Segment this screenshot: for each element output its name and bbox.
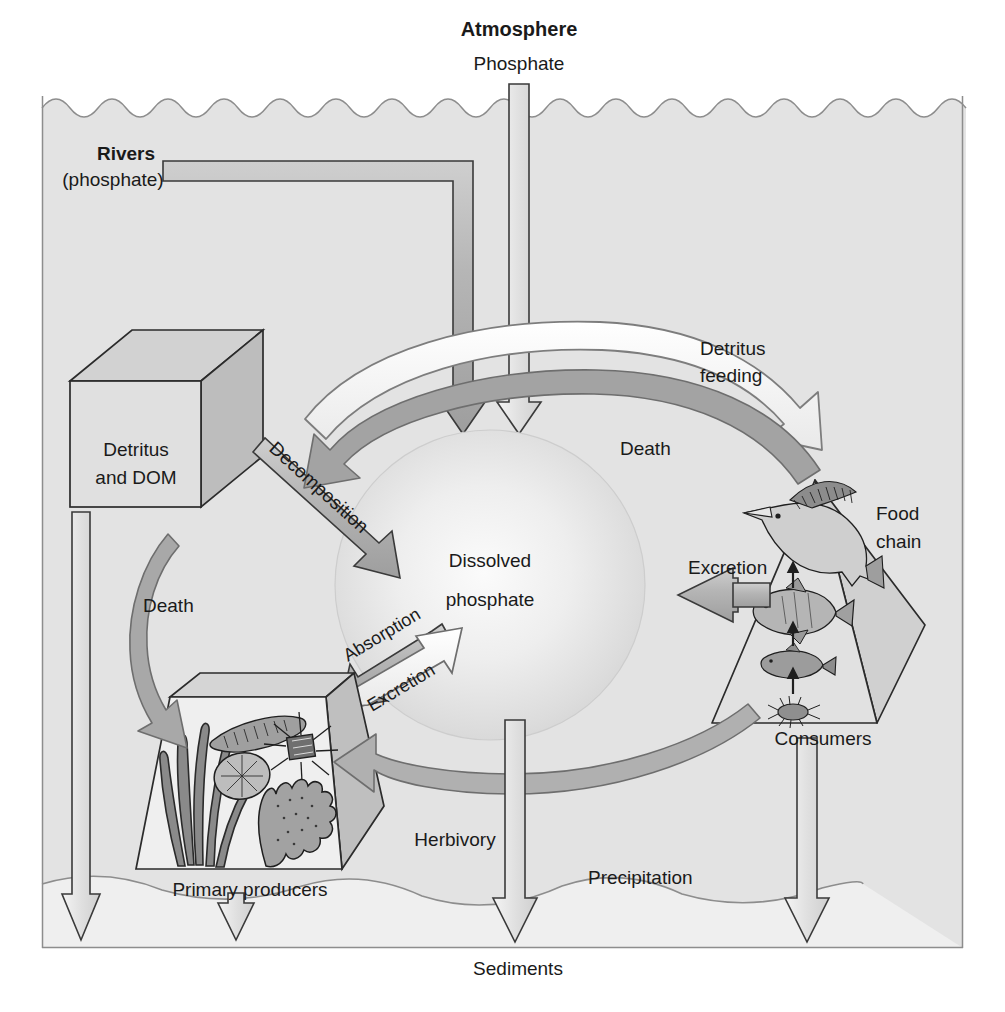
label-atmosphere-flux: Phosphate [474, 53, 565, 74]
label-dissolved-1: Dissolved [449, 550, 531, 571]
label-death-left: Death [143, 595, 194, 616]
phosphorus-cycle-diagram: Atmosphere Phosphate Rivers (phosphate) … [0, 0, 1005, 1012]
producers-box-top [170, 673, 354, 697]
excretion-consumers-shaft [733, 583, 770, 607]
label-death-top: Death [620, 438, 671, 459]
label-detritus-feeding-1: Detritus [700, 338, 765, 359]
label-detritus-line2: and DOM [95, 467, 176, 488]
label-rivers: Rivers [97, 143, 155, 164]
label-precipitation: Precipitation [588, 867, 693, 888]
label-detritus: Detritus [103, 439, 168, 460]
label-rivers-sub: (phosphate) [62, 169, 163, 190]
label-dissolved-2: phosphate [446, 589, 535, 610]
label-detritus-feeding-2: feeding [700, 365, 762, 386]
figure-canvas: Atmosphere Phosphate Rivers (phosphate) … [0, 0, 1005, 1012]
label-food-chain-2: chain [876, 531, 921, 552]
label-excretion-consumers: Excretion [688, 557, 767, 578]
label-atmosphere: Atmosphere [461, 18, 578, 40]
label-herbivory: Herbivory [414, 829, 496, 850]
label-primary-producers: Primary producers [172, 879, 327, 900]
label-sediments: Sediments [473, 958, 563, 979]
label-food-chain-1: Food [876, 503, 919, 524]
label-consumers: Consumers [774, 728, 871, 749]
